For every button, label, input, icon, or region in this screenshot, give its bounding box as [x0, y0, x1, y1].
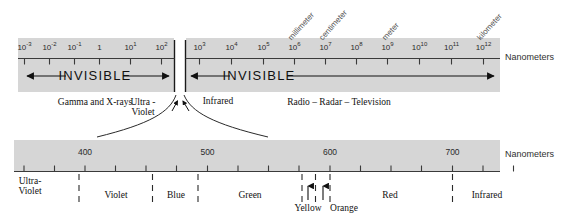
bottom-number-label-400: 400: [78, 148, 92, 157]
top-tick-label-t0: 1: [97, 44, 101, 52]
tick-exponent: 10: [421, 41, 428, 47]
em-spectrum-figure: 10-310-210-11101102103104105106107108109…: [0, 0, 578, 219]
bottom-number-label-500: 500: [200, 148, 214, 157]
tick-mantissa: 10: [319, 43, 328, 52]
color-band-label-infrared: Infrared: [472, 190, 503, 200]
tick-exponent: 3: [202, 41, 205, 47]
top-tick-label-t-3: 10-3: [17, 44, 31, 52]
caption-infrared-top: Infrared: [203, 97, 234, 107]
top-tick-label-t-1: 10-1: [67, 44, 81, 52]
color-band-label-ultra: Ultra-Violet: [18, 176, 41, 197]
tick-exponent: -1: [76, 41, 81, 47]
bottom-number-label-700: 700: [445, 148, 459, 157]
color-label-line1: Green: [238, 190, 261, 200]
color-band-label-green: Green: [238, 190, 261, 200]
top-tick-label-t2: 102: [155, 44, 167, 52]
color-label-line1: Infrared: [472, 190, 503, 200]
bottom-unit-label: Nanometers: [505, 150, 554, 159]
top-tick-label-t8: 108: [350, 44, 362, 52]
tick-mantissa: 10: [42, 43, 51, 52]
tick-exponent: -3: [26, 41, 31, 47]
tick-mantissa: 10: [288, 43, 297, 52]
tick-mantissa: 10: [350, 43, 359, 52]
caption-radio-radar-tv: Radio – Radar – Television: [287, 98, 391, 108]
color-band-label-blue: Blue: [167, 190, 185, 200]
color-label-line1: Yellow: [294, 203, 321, 213]
color-label-line1: Violet: [104, 190, 127, 200]
color-band-label-red: Red: [382, 190, 397, 200]
color-band-label-violet: Violet: [104, 190, 127, 200]
tick-mantissa: 10: [381, 43, 390, 52]
tick-exponent: 12: [485, 41, 492, 47]
top-unit-label: Nanometers: [505, 53, 554, 62]
top-region-label-left: INVISIBLE: [59, 69, 132, 82]
color-label-line1: Red: [382, 190, 397, 200]
top-tick-label-t5: 105: [257, 44, 269, 52]
visible-light-gap: [174, 38, 186, 92]
tick-exponent: 6: [297, 41, 300, 47]
top-tick-label-t7: 107: [319, 44, 331, 52]
tick-mantissa: 10: [257, 43, 266, 52]
visible-gap-pointer-arrows: [172, 101, 189, 111]
top-tick-label-t9: 109: [381, 44, 393, 52]
top-tick-label-t4: 104: [225, 44, 237, 52]
tick-mantissa: 10: [124, 43, 133, 52]
color-label-line2: Violet: [18, 186, 41, 196]
tick-exponent: 9: [390, 41, 393, 47]
tick-exponent: 2: [164, 41, 167, 47]
top-tick-label-t-2: 10-2: [42, 44, 56, 52]
top-tick-label-t1: 101: [124, 44, 136, 52]
tick-mantissa: 10: [67, 43, 76, 52]
tick-mantissa: 10: [193, 43, 202, 52]
top-tick-label-t12: 1012: [476, 44, 492, 52]
top-tick-label-t11: 1011: [444, 44, 459, 52]
tick-mantissa: 10: [412, 43, 421, 52]
caption-ultraviolet-line2: Violet: [131, 107, 154, 117]
top-tick-label-t10: 1010: [412, 44, 428, 52]
caption-ultraviolet: Ultra - Violet: [130, 97, 155, 118]
tick-mantissa: 10: [476, 43, 485, 52]
tick-mantissa: 10: [155, 43, 164, 52]
caption-ultraviolet-line1: Ultra -: [130, 97, 155, 107]
color-label-line1: Orange: [330, 203, 358, 213]
tick-exponent: 11: [453, 41, 459, 47]
color-band-label-yellow: Yellow: [294, 203, 321, 213]
top-tick-label-t6: 106: [288, 44, 300, 52]
tick-exponent: 5: [266, 41, 269, 47]
tick-exponent: 8: [359, 41, 362, 47]
top-tick-label-t3: 103: [193, 44, 205, 52]
tick-exponent: -2: [51, 41, 56, 47]
color-band-label-orange: Orange: [330, 203, 358, 213]
tick-mantissa: 10: [444, 43, 453, 52]
top-region-label-right: INVISIBLE: [223, 69, 296, 82]
tick-mantissa: 10: [225, 43, 234, 52]
color-label-line1: Ultra-: [19, 176, 42, 186]
tick-exponent: 7: [328, 41, 331, 47]
bottom-number-label-600: 600: [323, 148, 337, 157]
color-label-line1: Blue: [167, 190, 185, 200]
caption-gamma-xrays: Gamma and X-rays: [58, 98, 132, 108]
gap-pointer-left: [172, 101, 178, 111]
tick-exponent: 4: [234, 41, 237, 47]
tick-mantissa: 10: [17, 43, 26, 52]
tick-mantissa: 1: [97, 43, 101, 52]
tick-exponent: 1: [133, 41, 136, 47]
